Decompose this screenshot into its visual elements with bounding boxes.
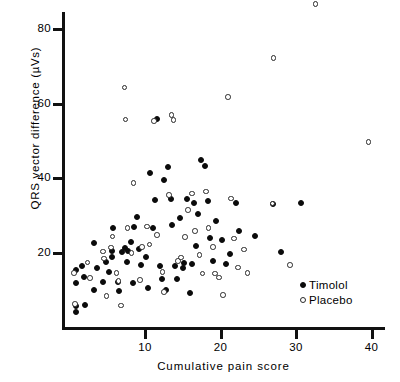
data-point-timolol: [145, 285, 151, 291]
data-point-placebo: [104, 293, 110, 299]
data-point-placebo: [114, 270, 120, 276]
data-point-placebo: [182, 234, 188, 240]
data-point-timolol: [161, 177, 167, 183]
data-point-timolol: [187, 290, 193, 296]
open-circle-icon: [300, 297, 306, 303]
data-point-timolol: [213, 218, 219, 224]
data-point-placebo: [225, 94, 231, 100]
data-point-timolol: [223, 261, 229, 267]
data-point-placebo: [71, 270, 77, 276]
data-point-timolol: [236, 228, 242, 234]
data-point-timolol: [110, 225, 116, 231]
legend-item-timolol: Timolol: [300, 277, 353, 292]
data-point-placebo: [241, 247, 247, 253]
data-point-placebo: [131, 180, 137, 186]
data-point-timolol: [106, 269, 112, 275]
data-point-timolol: [94, 265, 100, 271]
data-point-timolol: [165, 164, 171, 170]
data-point-placebo: [72, 301, 78, 307]
data-point-placebo: [110, 234, 116, 240]
data-point-timolol: [109, 254, 115, 260]
plot-area: [0, 0, 400, 382]
data-point-timolol: [134, 214, 140, 220]
data-point-timolol: [73, 280, 79, 286]
data-point-timolol: [202, 163, 208, 169]
data-point-timolol: [169, 222, 175, 228]
data-point-placebo: [245, 270, 251, 276]
data-point-placebo: [271, 55, 277, 61]
data-point-timolol: [189, 261, 195, 267]
data-point-placebo: [210, 244, 216, 250]
data-point-placebo: [287, 262, 293, 268]
data-point-timolol: [91, 240, 97, 246]
data-point-timolol: [181, 260, 187, 266]
legend-label-placebo: Placebo: [309, 294, 353, 306]
data-point-timolol: [147, 170, 153, 176]
data-point-placebo: [366, 139, 372, 145]
legend: Timolol Placebo: [300, 277, 353, 307]
data-point-placebo: [122, 85, 128, 91]
data-point-timolol: [73, 309, 79, 315]
data-point-placebo: [87, 275, 93, 281]
data-point-timolol: [252, 233, 258, 239]
data-point-timolol: [152, 197, 158, 203]
data-point-timolol: [193, 243, 199, 249]
data-point-timolol: [205, 198, 211, 204]
legend-label-timolol: Timolol: [309, 279, 348, 291]
data-point-timolol: [278, 249, 284, 255]
data-point-placebo: [85, 260, 91, 266]
data-point-placebo: [154, 232, 160, 238]
data-point-placebo: [171, 117, 177, 123]
data-point-timolol: [100, 279, 106, 285]
data-point-placebo: [161, 289, 167, 295]
data-point-timolol: [219, 237, 225, 243]
data-point-timolol: [172, 263, 178, 269]
data-point-timolol: [116, 288, 122, 294]
filled-circle-icon: [300, 282, 306, 288]
data-point-placebo: [197, 252, 203, 258]
data-point-timolol: [157, 263, 163, 269]
data-point-timolol: [124, 259, 130, 265]
data-point-timolol: [207, 235, 213, 241]
data-point-timolol: [130, 280, 136, 286]
data-point-placebo: [166, 192, 172, 198]
data-point-placebo: [129, 250, 135, 256]
data-point-timolol: [184, 196, 190, 202]
data-point-placebo: [220, 292, 226, 298]
x-axis-title: Cumulative pain score: [62, 360, 385, 372]
data-point-placebo: [235, 265, 241, 271]
data-point-timolol: [150, 225, 156, 231]
data-point-timolol: [143, 254, 149, 260]
data-point-timolol: [174, 276, 180, 282]
data-point-placebo: [147, 242, 153, 248]
data-point-timolol: [180, 265, 186, 271]
data-point-placebo: [206, 225, 212, 231]
data-point-placebo: [185, 207, 191, 213]
data-point-timolol: [298, 200, 304, 206]
scatter-plot-figure: 2040608010203040 Cumulative pain score Q…: [0, 0, 400, 382]
data-point-placebo: [313, 1, 319, 7]
data-point-timolol: [91, 287, 97, 293]
data-point-timolol: [128, 239, 134, 245]
data-point-placebo: [123, 117, 129, 123]
data-point-placebo: [139, 244, 145, 250]
data-point-placebo: [231, 236, 237, 242]
data-point-timolol: [191, 200, 197, 206]
data-point-timolol: [159, 276, 165, 282]
data-point-placebo: [160, 269, 166, 275]
data-point-placebo: [137, 277, 143, 283]
data-point-timolol: [177, 215, 183, 221]
data-point-timolol: [210, 258, 216, 264]
data-point-timolol: [79, 263, 85, 269]
data-point-timolol: [233, 200, 239, 206]
data-point-timolol: [81, 274, 87, 280]
data-point-placebo: [125, 225, 131, 231]
data-point-placebo: [151, 118, 157, 124]
data-point-timolol: [227, 251, 233, 257]
data-point-placebo: [189, 191, 195, 197]
data-point-timolol: [138, 262, 144, 268]
legend-item-placebo: Placebo: [300, 292, 353, 307]
data-point-placebo: [203, 189, 209, 195]
data-point-timolol: [198, 157, 204, 163]
data-point-placebo: [200, 271, 206, 277]
